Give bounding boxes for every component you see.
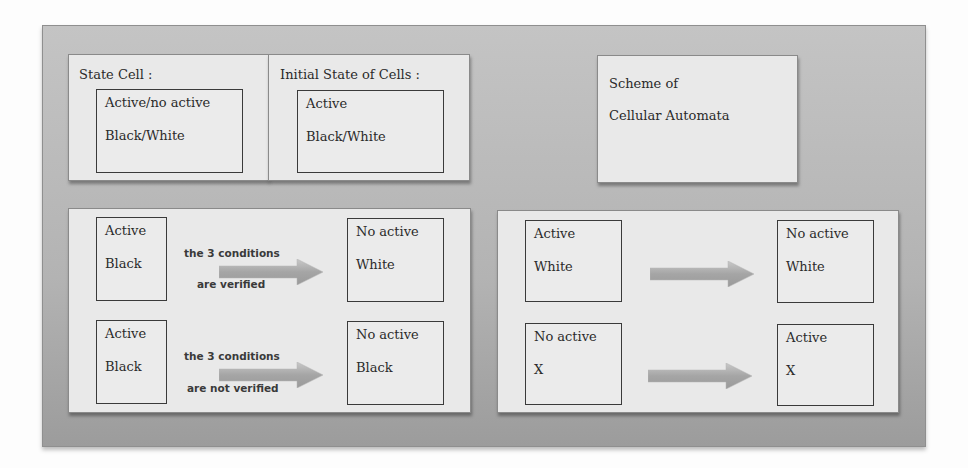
rule-left-1-from: Active Black — [96, 217, 167, 301]
cell-color-label: Black — [356, 361, 393, 374]
rule-right-2-from: No active X — [525, 323, 622, 405]
right-arrow-icon — [650, 261, 754, 287]
state-cell-line2: Black/White — [105, 129, 185, 142]
rule-left-1-condition-top: the 3 conditions — [184, 247, 280, 259]
cell-state-label: Active — [105, 224, 146, 237]
cell-color-label: Black — [105, 257, 142, 270]
state-cell-panel: State Cell : Active/no active Black/Whit… — [68, 54, 269, 181]
right-arrow-icon — [648, 363, 752, 389]
cell-state-label: No active — [356, 328, 419, 341]
state-cell-title: State Cell : — [79, 67, 152, 82]
rule-right-2-to: Active X — [777, 324, 874, 406]
rules-right-panel: Active White No active White No active X… — [497, 210, 899, 413]
initial-state-line2: Black/White — [306, 130, 386, 143]
initial-state-box: Active Black/White — [297, 90, 444, 173]
rule-left-1-condition-bottom: are verified — [197, 278, 265, 290]
initial-state-line1: Active — [306, 97, 347, 110]
scheme-title-line1: Scheme of — [609, 76, 678, 91]
rule-left-2-condition-bottom: are not verified — [187, 382, 279, 394]
rule-left-2-from: Active Black — [96, 320, 167, 404]
cell-color-label: White — [534, 260, 573, 273]
cell-color-label: White — [356, 258, 395, 271]
initial-state-title: Initial State of Cells : — [280, 67, 420, 82]
cell-color-label: X — [786, 364, 795, 377]
cell-state-label: Active — [105, 327, 146, 340]
cell-color-label: X — [534, 363, 543, 376]
cell-state-label: Active — [534, 227, 575, 240]
rule-right-1-from: Active White — [525, 220, 622, 302]
rules-left-panel: Active Black the 3 conditions are verifi… — [68, 208, 471, 413]
cell-state-label: No active — [534, 330, 597, 343]
cell-state-label: No active — [786, 227, 849, 240]
scheme-title-panel: Scheme of Cellular Automata — [597, 55, 798, 183]
state-cell-box: Active/no active Black/White — [96, 89, 243, 173]
state-cell-line1: Active/no active — [105, 96, 210, 109]
scheme-title-line2: Cellular Automata — [609, 108, 729, 123]
rule-left-2-condition-top: the 3 conditions — [184, 350, 280, 362]
cell-color-label: Black — [105, 360, 142, 373]
rule-right-1-to: No active White — [777, 220, 874, 303]
rule-left-2-to: No active Black — [347, 321, 444, 405]
cell-color-label: White — [786, 260, 825, 273]
cell-state-label: Active — [786, 331, 827, 344]
rule-left-1-to: No active White — [347, 218, 444, 302]
cell-state-label: No active — [356, 225, 419, 238]
initial-state-panel: Initial State of Cells : Active Black/Wh… — [268, 54, 470, 181]
